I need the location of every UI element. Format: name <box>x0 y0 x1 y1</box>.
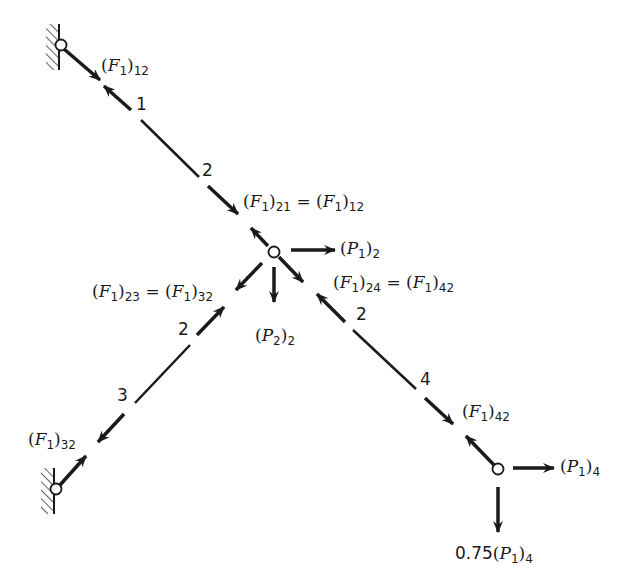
label-f1-23-eq-f1-32: (F1)23 = (F1)32 <box>92 283 213 303</box>
force-arrow-f12-on-joint1 <box>64 49 100 80</box>
member-end-label-3: 3 <box>117 387 128 404</box>
member-body-2-4 <box>353 330 416 389</box>
truss-free-body-diagram: 1 2 2 3 2 4 (F1)12 (F1)21 = (F1)12 (P1)2… <box>0 0 626 585</box>
member-end-label-1: 1 <box>136 96 147 113</box>
member-end-label-2-top: 2 <box>202 162 213 179</box>
label-075-p1-4: 0.75(P1)4 <box>455 545 533 565</box>
member-end-label-4: 4 <box>420 371 431 388</box>
force-arrow-member1-end <box>104 86 131 110</box>
joint-3-pin <box>51 484 62 495</box>
member-1-2 <box>64 49 268 246</box>
joint-2-pin <box>269 247 280 258</box>
member-body-2-3 <box>135 345 190 403</box>
force-arrow-member4-end <box>425 398 453 424</box>
force-arrow-f32-on-joint3 <box>60 456 86 485</box>
joint-1-pin <box>56 40 67 51</box>
label-p1-2: (P1)2 <box>340 240 380 260</box>
label-p2-2: (P2)2 <box>255 327 295 347</box>
joint-4-pin <box>493 464 504 475</box>
force-arrow-member2-end <box>208 186 238 214</box>
force-arrow-f23-on-joint2 <box>236 263 262 290</box>
load-coefficient: 0.75 <box>455 543 493 563</box>
label-p1-4: (P1)4 <box>560 458 600 478</box>
member-end-label-2-left: 2 <box>178 321 189 338</box>
member-end-label-2-right: 2 <box>356 306 367 323</box>
label-f1-12: (F1)12 <box>101 57 149 77</box>
label-f1-24-eq-f1-42: (F1)24 = (F1)42 <box>333 274 454 294</box>
force-arrow-member2-end-24 <box>317 294 345 322</box>
force-arrow-f21-on-joint2 <box>251 228 268 246</box>
force-arrow-f24-on-joint2 <box>279 257 303 282</box>
force-arrow-member3-end <box>98 414 124 442</box>
member-body-1-2 <box>141 120 199 177</box>
label-f1-32: (F1)32 <box>28 431 76 451</box>
force-arrow-f42-on-joint4 <box>466 436 494 465</box>
label-f1-21-eq-f1-12: (F1)21 = (F1)12 <box>243 193 364 213</box>
force-arrow-member2-end-23 <box>197 307 224 335</box>
label-f1-42: (F1)42 <box>462 403 510 423</box>
